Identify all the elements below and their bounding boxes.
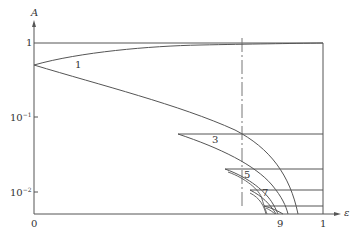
x-axis-label: ε	[344, 208, 349, 218]
curve-5-lower	[225, 169, 278, 214]
x-tick-label-1: 1	[320, 219, 326, 229]
y-tick-label-1: 1	[26, 38, 32, 48]
y-axis-arrow-icon	[32, 20, 36, 27]
y-axis-label: A	[31, 8, 38, 18]
chart-plot	[0, 0, 359, 239]
y-tick-label-0.1: 10−1	[10, 112, 32, 123]
curve-label-3: 3	[212, 135, 218, 145]
curve-label-7: 7	[262, 188, 268, 198]
y-tick-label-0.01: 10−2	[10, 187, 32, 198]
curve-label-1: 1	[75, 60, 81, 70]
x-tick-label-0: 0	[31, 219, 37, 229]
curve-label-5: 5	[244, 170, 250, 180]
x-axis-arrow-icon	[334, 212, 341, 216]
curve-label-9: 9	[277, 219, 283, 229]
